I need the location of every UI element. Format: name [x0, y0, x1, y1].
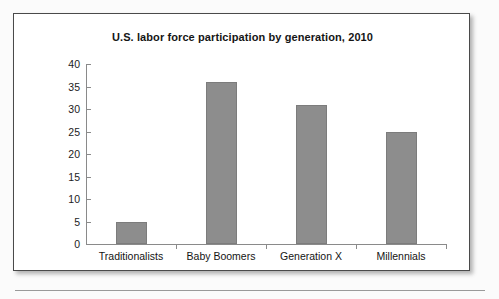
bar — [386, 132, 417, 245]
y-axis-tick — [86, 132, 91, 133]
x-axis-end-tick — [446, 244, 447, 249]
page-divider-rule — [15, 290, 485, 291]
y-axis-tick — [86, 154, 91, 155]
y-axis-tick — [86, 177, 91, 178]
y-axis-tick — [86, 222, 91, 223]
x-axis-separator-tick — [356, 244, 357, 249]
y-axis-tick-label: 30 — [34, 103, 80, 115]
x-axis-category-label: Millennials — [356, 250, 446, 262]
y-axis-tick-label: 25 — [34, 126, 80, 138]
y-axis-tick-label: 35 — [34, 81, 80, 93]
y-axis-tick — [86, 199, 91, 200]
bar — [206, 82, 237, 244]
y-axis-tick-label: 15 — [34, 171, 80, 183]
x-axis-separator-tick — [176, 244, 177, 249]
x-axis-separator-tick — [266, 244, 267, 249]
bar — [116, 222, 147, 245]
bar — [296, 105, 327, 245]
y-axis-tick-label: 20 — [34, 148, 80, 160]
x-axis-category-label: Traditionalists — [86, 250, 176, 262]
y-axis-tick-label: 40 — [34, 58, 80, 70]
page-background: U.S. labor force participation by genera… — [0, 0, 499, 299]
x-axis-category-label: Generation X — [266, 250, 356, 262]
figure-card: U.S. labor force participation by genera… — [13, 13, 470, 271]
chart-title: U.S. labor force participation by genera… — [14, 31, 471, 43]
y-axis-tick-label: 0 — [34, 238, 80, 250]
y-axis-tick — [86, 87, 91, 88]
y-axis-tick-label: 10 — [34, 193, 80, 205]
y-axis-tick — [86, 244, 91, 245]
y-axis-tick-label: 5 — [34, 216, 80, 228]
y-axis-tick — [86, 64, 91, 65]
x-axis-category-label: Baby Boomers — [176, 250, 266, 262]
y-axis-tick — [86, 109, 91, 110]
